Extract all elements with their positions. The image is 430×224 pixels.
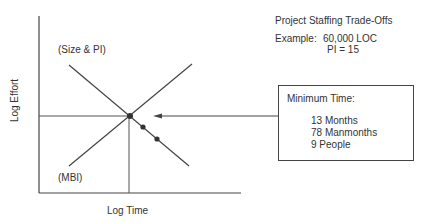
callout-manmonths: 78 Manmonths bbox=[311, 127, 377, 139]
callout-people: 9 People bbox=[311, 139, 350, 151]
callout-title: Minimum Time: bbox=[287, 93, 355, 105]
tradeoff-point-1 bbox=[140, 124, 145, 129]
tradeoff-point-2 bbox=[154, 136, 159, 141]
callout-months: 13 Months bbox=[311, 115, 358, 127]
example-label: Example: bbox=[275, 33, 317, 45]
example-pi: PI = 15 bbox=[327, 44, 359, 56]
minimum-time-callout: Minimum Time: 13 Months 78 Manmonths 9 P… bbox=[278, 85, 414, 161]
minimum-time-point bbox=[127, 113, 133, 119]
staffing-tradeoff-diagram: (Size & PI) (MBI) Log Effort Log Time Pr… bbox=[0, 0, 430, 224]
arrow-head-icon bbox=[153, 114, 162, 119]
diagram-title: Project Staffing Trade-Offs bbox=[275, 15, 392, 27]
mbi-label: (MBI) bbox=[58, 172, 82, 184]
x-axis-label: Log Time bbox=[107, 205, 148, 217]
y-axis-label: Log Effort bbox=[9, 71, 20, 131]
size-pi-label: (Size & PI) bbox=[58, 44, 106, 56]
